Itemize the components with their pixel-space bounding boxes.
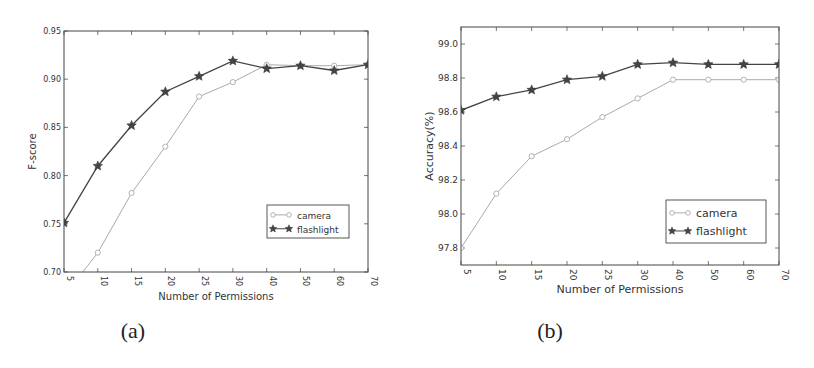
x-tick-label: 10	[99, 276, 108, 286]
x-tick-label: 20	[568, 269, 578, 281]
series-camera	[61, 62, 370, 299]
star-marker	[562, 75, 572, 84]
x-tick-label: 50	[301, 276, 310, 286]
star-marker	[527, 85, 537, 94]
x-axis-label: Number of Permissions	[158, 291, 273, 302]
y-tick-label: 98.8	[438, 73, 458, 83]
circle-marker	[741, 77, 746, 82]
x-tick-label: 50	[709, 269, 719, 281]
x-tick-label: 60	[335, 276, 344, 286]
y-tick-label: 0.75	[43, 220, 61, 229]
star-marker	[598, 71, 608, 80]
star-marker	[228, 56, 238, 65]
legend-circle-icon	[271, 213, 276, 218]
y-axis-label: Accuracy(%)	[423, 111, 436, 180]
circle-marker	[494, 191, 499, 196]
legend-label-flashlight: flashlight	[696, 225, 747, 238]
y-tick-label: 0.90	[43, 75, 61, 84]
x-tick-label: 20	[166, 276, 175, 286]
star-marker	[704, 59, 714, 68]
y-tick-label: 0.95	[43, 27, 61, 36]
x-axis-label: Number of Permissions	[557, 283, 684, 296]
y-tick-label: 98.6	[438, 107, 458, 117]
x-tick-label: 70	[780, 269, 790, 281]
y-tick-label: 98.2	[438, 175, 458, 185]
x-tick-label: 60	[745, 269, 755, 281]
circle-marker	[129, 190, 134, 195]
circle-marker	[95, 250, 100, 255]
circle-marker	[600, 115, 605, 120]
legend-label-flashlight: flashlight	[297, 225, 339, 235]
circle-marker	[670, 77, 675, 82]
legend-circle-icon	[287, 213, 292, 218]
star-marker	[329, 66, 339, 75]
circle-marker	[635, 96, 640, 101]
y-tick-label: 97.8	[438, 243, 458, 253]
x-tick-label: 40	[268, 276, 277, 286]
figure: 0.700.750.800.850.900.955101520253040506…	[0, 0, 814, 368]
circle-marker	[61, 294, 66, 299]
star-marker	[739, 59, 749, 68]
legend-label-camera: camera	[696, 207, 738, 220]
circle-marker	[706, 77, 711, 82]
legend-label-camera: camera	[297, 211, 331, 221]
y-tick-label: 0.70	[43, 268, 61, 277]
x-tick-label: 5	[462, 269, 472, 275]
series-flashlight	[456, 58, 784, 115]
star-marker	[194, 71, 204, 80]
x-tick-label: 40	[674, 269, 684, 281]
x-tick-label: 30	[234, 276, 243, 286]
legend: cameraflashlight	[666, 200, 766, 243]
chart-panel-b: 97.898.098.298.498.698.899.0510152025304…	[423, 27, 790, 296]
y-tick-label: 99.0	[438, 39, 458, 49]
y-tick-label: 0.80	[43, 172, 61, 181]
legend-circle-icon	[670, 211, 675, 216]
y-tick-label: 98.4	[438, 141, 458, 151]
circle-marker	[163, 144, 168, 149]
star-marker	[668, 58, 678, 67]
charts-canvas: 0.700.750.800.850.900.955101520253040506…	[0, 0, 814, 368]
y-tick-label: 98.0	[438, 209, 458, 219]
circle-marker	[230, 79, 235, 84]
x-tick-label: 15	[133, 276, 142, 286]
x-tick-label: 25	[603, 269, 613, 280]
y-axis-label: F-score	[27, 133, 38, 169]
x-tick-label: 70	[369, 276, 378, 286]
legend-circle-icon	[686, 211, 691, 216]
x-tick-label: 5	[65, 276, 74, 281]
x-tick-label: 30	[639, 269, 649, 281]
chart-panel-a: 0.700.750.800.850.900.955101520253040506…	[27, 27, 378, 302]
x-tick-label: 25	[200, 276, 209, 286]
star-marker	[633, 59, 643, 68]
circle-marker	[197, 94, 202, 99]
legend: cameraflashlight	[267, 205, 349, 238]
y-tick-label: 0.85	[43, 123, 61, 132]
circle-marker	[564, 137, 569, 142]
caption-a: (a)	[103, 318, 163, 344]
star-marker	[492, 92, 502, 101]
caption-b: (b)	[520, 318, 580, 344]
x-tick-label: 15	[533, 269, 543, 280]
circle-marker	[529, 154, 534, 159]
series-flashlight	[59, 56, 373, 227]
x-tick-label: 10	[497, 269, 507, 281]
